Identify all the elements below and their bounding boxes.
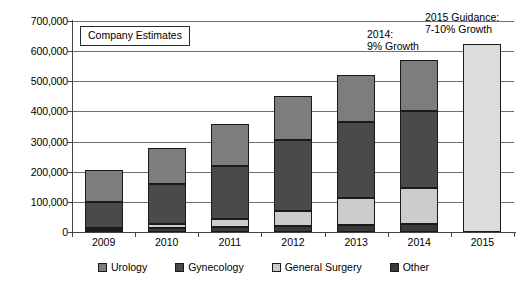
bar-2011 xyxy=(211,21,249,232)
bar-segment-urology-2010 xyxy=(148,148,186,184)
bar-2009 xyxy=(85,21,123,232)
annotation-2015-line1: 2015 Guidance: xyxy=(425,11,499,23)
legend-swatch-icon xyxy=(175,263,184,272)
x-tick-label-2009: 2009 xyxy=(72,236,135,248)
annotation-2014-line2: 9% Growth xyxy=(367,40,419,52)
x-tick-label-2011: 2011 xyxy=(198,236,261,248)
y-tick-label: 300,000 xyxy=(31,136,68,148)
bar-segment-urology-2013 xyxy=(337,75,375,122)
x-tick-label-2013: 2013 xyxy=(325,236,388,248)
legend-item-gynecology[interactable]: Gynecology xyxy=(175,261,243,273)
x-tick-label-2014: 2014 xyxy=(388,236,451,248)
x-tick-label-2010: 2010 xyxy=(135,236,198,248)
y-tick-label: 600,000 xyxy=(31,45,68,57)
legend-label: General Surgery xyxy=(285,261,362,273)
y-axis-line xyxy=(72,20,73,233)
bar-segment-gynecology-2011 xyxy=(211,166,249,220)
legend-label: Urology xyxy=(111,261,147,273)
legend-label: Other xyxy=(403,261,429,273)
bar-segment-other-2014 xyxy=(400,224,438,232)
annotation-2014-growth: 2014: 9% Growth xyxy=(367,28,419,53)
bar-2010 xyxy=(148,21,186,232)
bar-segment-other-2013 xyxy=(337,225,375,232)
x-tick-label-2015: 2015 xyxy=(451,236,514,248)
chart-legend: UrologyGynecologyGeneral SurgeryOther xyxy=(0,258,527,276)
y-tick-label: 500,000 xyxy=(31,75,68,87)
legend-label: Gynecology xyxy=(188,261,243,273)
bar-segment-gynecology-2014 xyxy=(400,111,438,187)
plot-area xyxy=(72,21,514,232)
bar-segment-urology-2009 xyxy=(85,170,123,202)
company-estimates-box: Company Estimates xyxy=(80,26,190,46)
bar-segment-gynecology-2013 xyxy=(337,122,375,198)
annotation-2014-line1: 2014: xyxy=(367,28,419,40)
bar-segment-general-surgery-2013 xyxy=(337,198,375,226)
bar-segment-general-surgery-2014 xyxy=(400,188,438,225)
legend-swatch-icon xyxy=(98,263,107,272)
annotation-2015-guidance: 2015 Guidance: 7-10% Growth xyxy=(425,11,499,36)
x-tick-mark xyxy=(514,232,515,237)
bar-segment-urology-2011 xyxy=(211,124,249,166)
legend-item-other[interactable]: Other xyxy=(390,261,429,273)
bar-segment-urology-2012 xyxy=(274,96,312,140)
legend-item-urology[interactable]: Urology xyxy=(98,261,147,273)
bar-segment-gynecology-2012 xyxy=(274,140,312,211)
bar-segment-guidance-2015 xyxy=(463,44,501,232)
stacked-bar-chart: 0100,000200,000300,000400,000500,000600,… xyxy=(0,0,527,284)
x-axis-line xyxy=(72,232,516,233)
legend-swatch-icon xyxy=(390,263,399,272)
bar-2012 xyxy=(274,21,312,232)
bar-segment-general-surgery-2009 xyxy=(85,228,123,230)
bar-2015 xyxy=(463,21,501,232)
bar-segment-gynecology-2009 xyxy=(85,202,123,228)
x-tick-label-2012: 2012 xyxy=(261,236,324,248)
bar-segment-general-surgery-2012 xyxy=(274,211,312,226)
legend-item-general-surgery[interactable]: General Surgery xyxy=(272,261,362,273)
bar-segment-general-surgery-2011 xyxy=(211,219,249,226)
annotation-2015-line2: 7-10% Growth xyxy=(425,23,499,35)
bar-segment-urology-2014 xyxy=(400,60,438,111)
y-axis-labels: 0100,000200,000300,000400,000500,000600,… xyxy=(0,0,68,284)
company-estimates-label: Company Estimates xyxy=(88,29,182,41)
bar-segment-general-surgery-2010 xyxy=(148,224,186,229)
y-tick-label: 200,000 xyxy=(31,166,68,178)
y-tick-label: 400,000 xyxy=(31,105,68,117)
legend-swatch-icon xyxy=(272,263,281,272)
y-tick-label: 700,000 xyxy=(31,15,68,27)
y-tick-label: 100,000 xyxy=(31,196,68,208)
bar-segment-gynecology-2010 xyxy=(148,184,186,224)
